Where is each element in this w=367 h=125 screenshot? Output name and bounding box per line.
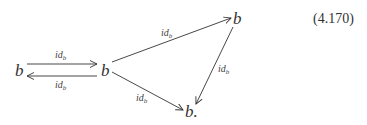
commutative-diagram: b b b b. idb idb idb idb idb (4.170) (0, 0, 367, 125)
arrow-middle-to-top-right (112, 18, 231, 62)
node-bottom: b. (185, 103, 198, 120)
label-middle-to-bottom: idb (136, 93, 147, 105)
label-top-right-to-bottom: idb (218, 64, 229, 76)
label-left-to-middle: idb (55, 50, 66, 62)
arrow-middle-to-bottom (112, 72, 183, 110)
equation-number: (4.170) (313, 12, 354, 26)
node-left: b (15, 62, 24, 79)
diagram-arrows (0, 0, 367, 125)
label-middle-to-left: idb (55, 80, 66, 92)
node-top-right: b (233, 10, 242, 27)
label-middle-to-top-right: idb (161, 28, 172, 40)
node-middle: b (101, 62, 110, 79)
